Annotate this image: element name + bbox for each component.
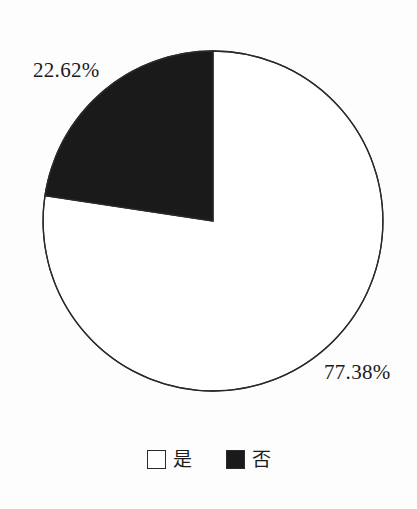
legend-item-no[interactable]: 否 [226,450,271,469]
pie-label-yes-percent: 77.38% [324,362,391,383]
pie-chart-figure: 22.62% 77.38% 是 否 [0,0,417,509]
legend-label-no: 否 [252,450,271,469]
legend-swatch-no-icon [226,450,245,469]
chart-legend: 是 否 [0,440,417,478]
legend-item-yes[interactable]: 是 [147,450,192,469]
legend-swatch-yes-icon [147,450,166,469]
pie-label-no-percent: 22.62% [33,60,100,81]
legend-label-yes: 是 [173,450,192,469]
